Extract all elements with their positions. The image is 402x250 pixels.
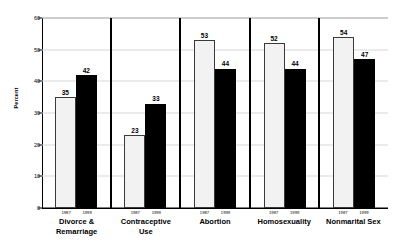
bar-slot: 42: [76, 18, 97, 208]
bar-slot: 44: [285, 18, 306, 208]
x-year-label: 1999: [77, 209, 98, 215]
bar-1987[interactable]: [333, 37, 354, 208]
bar-slot: 54: [333, 18, 354, 208]
bar-group: 5447: [320, 18, 388, 208]
x-panel-label-group: 19871999ContraceptiveUse: [111, 209, 180, 236]
x-year-label: 1999: [215, 209, 236, 215]
panel-group: 35422333534452445447: [42, 18, 388, 208]
y-axis-title: Percent: [13, 68, 19, 128]
x-category-label: Nonmarital Sex: [319, 215, 388, 227]
x-year-label: 1987: [263, 209, 284, 215]
chart-panel: 5447: [320, 18, 388, 208]
x-category-line: Divorce &: [42, 217, 111, 227]
bar-1999[interactable]: [354, 59, 375, 208]
bar-slot: 47: [354, 18, 375, 208]
x-category-label: Homosexuality: [250, 215, 319, 227]
bar-slot: 53: [194, 18, 215, 208]
bar-1987[interactable]: [55, 97, 76, 208]
x-axis-labels: 19871999Divorce &Remarriage19871999Contr…: [42, 209, 388, 236]
chart-panel: 5344: [181, 18, 251, 208]
bar-1987[interactable]: [124, 135, 145, 208]
bar-value-label: 52: [270, 35, 277, 42]
bar-chart: Percent 6050403020100 354223335344524454…: [0, 0, 402, 250]
x-year-label: 1999: [146, 209, 167, 215]
x-category-label: Divorce &Remarriage: [42, 215, 111, 236]
bar-slot: 33: [145, 18, 166, 208]
bar-value-label: 54: [340, 29, 347, 36]
bar-slot: 23: [124, 18, 145, 208]
bar-value-label: 44: [291, 60, 298, 67]
chart-panel: 2333: [112, 18, 182, 208]
bar-1999[interactable]: [76, 75, 97, 208]
bar-value-label: 23: [131, 127, 138, 134]
x-year-label: 1987: [56, 209, 77, 215]
x-category-label: ContraceptiveUse: [111, 215, 180, 236]
x-year-label: 1987: [194, 209, 215, 215]
y-tick-label: 30: [4, 110, 44, 116]
bar-value-label: 35: [62, 89, 69, 96]
x-panel-label-group: 19871999Nonmarital Sex: [319, 209, 388, 236]
bar-value-label: 33: [152, 95, 159, 102]
x-category-line: Nonmarital Sex: [319, 217, 388, 227]
y-tick-label: 20: [4, 142, 44, 148]
bar-slot: 44: [215, 18, 236, 208]
x-category-line: Abortion: [180, 217, 249, 227]
y-tick-label: 40: [4, 78, 44, 84]
chart-panel: 3542: [42, 18, 112, 208]
y-tick-label: 60: [4, 15, 44, 21]
bar-slot: 52: [264, 18, 285, 208]
x-year-label: 1999: [353, 209, 374, 215]
x-year-label: 1999: [284, 209, 305, 215]
x-panel-label-group: 19871999Abortion: [180, 209, 249, 236]
bar-value-label: 44: [222, 60, 229, 67]
bar-1987[interactable]: [264, 43, 285, 208]
bar-1987[interactable]: [194, 40, 215, 208]
bar-value-label: 42: [83, 67, 90, 74]
x-panel-label-group: 19871999Divorce &Remarriage: [42, 209, 111, 236]
bar-1999[interactable]: [145, 104, 166, 209]
x-year-label: 1987: [332, 209, 353, 215]
bar-group: 5244: [251, 18, 319, 208]
x-category-line: Use: [111, 227, 180, 237]
x-category-line: Homosexuality: [250, 217, 319, 227]
x-category-label: Abortion: [180, 215, 249, 227]
bar-group: 2333: [112, 18, 180, 208]
bar-value-label: 53: [201, 32, 208, 39]
chart-panel: 5244: [251, 18, 321, 208]
x-category-line: Remarriage: [42, 227, 111, 237]
bar-group: 3542: [42, 18, 110, 208]
bar-slot: 35: [55, 18, 76, 208]
bar-value-label: 47: [361, 51, 368, 58]
y-tick-label: 10: [4, 173, 44, 179]
bar-1999[interactable]: [285, 69, 306, 208]
bar-1999[interactable]: [215, 69, 236, 208]
bar-group: 5344: [181, 18, 249, 208]
y-tick-label: 0: [4, 205, 44, 211]
x-year-label: 1987: [125, 209, 146, 215]
x-panel-label-group: 19871999Homosexuality: [250, 209, 319, 236]
x-category-line: Contraceptive: [111, 217, 180, 227]
y-tick-label: 50: [4, 47, 44, 53]
